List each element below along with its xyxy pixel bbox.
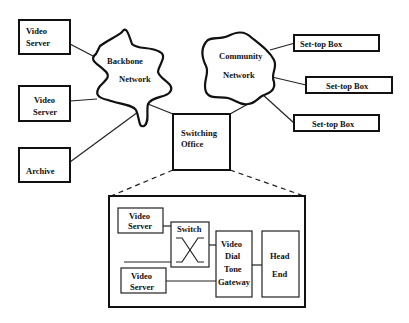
set-top-box-1: Set-top Box (294, 35, 379, 51)
svg-text:Community: Community (219, 51, 263, 61)
switching-office: Switching Office (173, 114, 230, 170)
detail-head-end: Head End (262, 231, 299, 297)
svg-text:Video: Video (129, 211, 150, 221)
svg-text:Archive: Archive (26, 166, 55, 176)
link-backbone-office (148, 104, 173, 114)
svg-text:Tone: Tone (224, 264, 242, 274)
svg-text:Switching: Switching (181, 128, 218, 138)
svg-text:Office: Office (181, 139, 203, 149)
link-vs2-backbone (70, 99, 97, 101)
svg-text:Video: Video (34, 95, 55, 105)
svg-text:Backbone: Backbone (107, 56, 143, 66)
svg-text:Dial: Dial (225, 251, 241, 261)
svg-text:Server: Server (33, 107, 57, 117)
zoom-line-right (230, 170, 304, 196)
svg-text:Gateway: Gateway (218, 277, 251, 287)
svg-text:Video: Video (221, 239, 242, 249)
video-server-2: Video Server (19, 86, 70, 121)
detail-video-dial-tone-gateway: Video Dial Tone Gateway (216, 231, 252, 297)
backbone-network-cloud: Backbone Network (93, 30, 171, 127)
detail-switch: Switch (171, 222, 209, 267)
svg-text:Network: Network (223, 70, 255, 80)
svg-text:Video: Video (26, 26, 47, 36)
video-server-1: Video Server (19, 20, 70, 54)
set-top-box-3: Set-top Box (294, 115, 379, 131)
svg-text:Network: Network (119, 74, 151, 84)
detail-video-server-a: Video Server (118, 208, 163, 233)
link-vs1-backbone (70, 44, 93, 56)
svg-text:Head: Head (270, 251, 290, 261)
link-community-office (230, 104, 248, 114)
link-archive-backbone (70, 112, 138, 162)
switching-office-detail: Video Server Video Server Switch Video D… (109, 196, 305, 307)
detail-video-server-b: Video Server (121, 268, 166, 293)
svg-text:Set-top Box: Set-top Box (312, 119, 355, 129)
svg-text:Set-top Box: Set-top Box (326, 81, 369, 91)
svg-text:Server: Server (130, 282, 154, 292)
svg-text:Video: Video (131, 271, 152, 281)
svg-text:Server: Server (128, 221, 152, 231)
archive-box: Archive (19, 148, 70, 182)
svg-text:Switch: Switch (177, 224, 202, 234)
link-stb2 (272, 77, 306, 85)
network-diagram: Video Server Video Server Archive Backbo… (0, 0, 409, 323)
link-stb1 (270, 43, 295, 50)
svg-text:End: End (272, 269, 287, 279)
zoom-line-left (111, 170, 173, 196)
svg-text:Set-top Box: Set-top Box (300, 39, 343, 49)
set-top-box-2: Set-top Box (306, 77, 392, 93)
svg-text:Server: Server (26, 38, 50, 48)
link-stb3 (262, 94, 294, 123)
community-network-cloud: Community Network (202, 33, 275, 105)
